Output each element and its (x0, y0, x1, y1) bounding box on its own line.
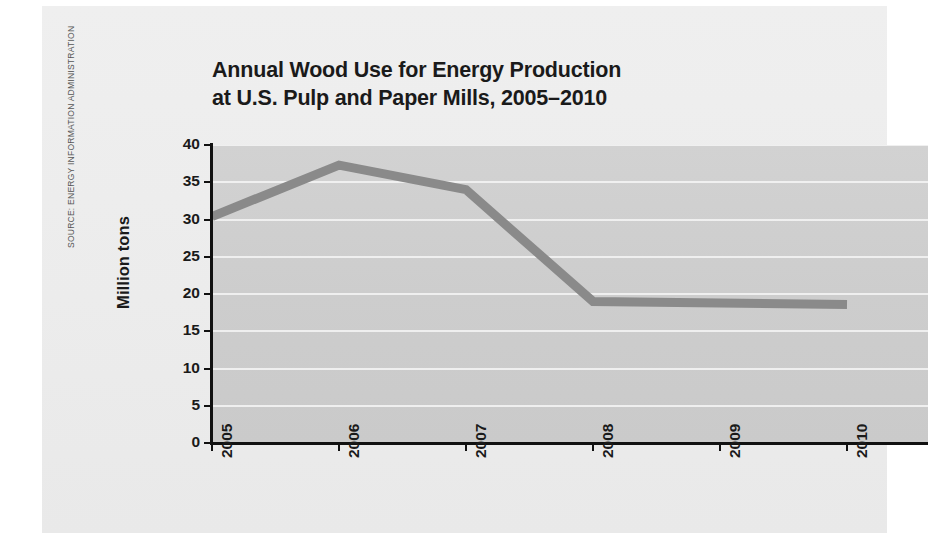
y-tick-mark (204, 181, 211, 183)
chart-title-line-2: at U.S. Pulp and Paper Mills, 2005–2010 (212, 84, 852, 112)
y-axis-title: Million tons (114, 178, 133, 348)
chart-title-line-1: Annual Wood Use for Energy Production (212, 56, 852, 84)
source-credit: SOURCE: ENERGY INFORMATION ADMINISTRATIO… (66, 18, 76, 248)
y-tick-label: 5 (140, 396, 200, 414)
x-tick-label: 2007 (472, 424, 490, 458)
y-tick-mark (204, 405, 211, 407)
series-line-chart (212, 145, 928, 443)
x-tick-label: 2006 (345, 424, 363, 458)
x-tick-mark (719, 445, 721, 451)
y-tick-mark (204, 330, 211, 332)
y-tick-mark (204, 293, 211, 295)
y-tick-labels: 4035302520151050 (134, 6, 200, 549)
y-tick-mark (204, 144, 211, 146)
y-tick-mark (204, 442, 211, 444)
x-tick-label: 2010 (853, 424, 871, 458)
x-tick-mark (465, 445, 467, 451)
y-tick-label: 0 (140, 433, 200, 451)
figure-panel: SOURCE: ENERGY INFORMATION ADMINISTRATIO… (42, 6, 887, 533)
y-tick-label: 35 (140, 172, 200, 190)
series-line-wood-use (212, 165, 847, 304)
chart-title: Annual Wood Use for Energy Production at… (212, 56, 852, 113)
x-tick-mark (846, 445, 848, 451)
y-tick-label: 10 (140, 359, 200, 377)
x-tick-label: 2008 (599, 424, 617, 458)
x-tick-mark (338, 445, 340, 451)
x-tick-label: 2005 (218, 424, 236, 458)
y-tick-label: 40 (140, 135, 200, 153)
x-tick-mark (592, 445, 594, 451)
x-axis-line (210, 442, 928, 445)
y-tick-mark (204, 219, 211, 221)
x-tick-label: 2009 (726, 424, 744, 458)
y-tick-label: 25 (140, 247, 200, 265)
y-tick-label: 30 (140, 210, 200, 228)
y-tick-mark (204, 256, 211, 258)
y-tick-label: 15 (140, 321, 200, 339)
y-tick-mark (204, 368, 211, 370)
x-tick-mark (211, 445, 213, 451)
y-tick-label: 20 (140, 284, 200, 302)
plot-area (212, 145, 928, 443)
